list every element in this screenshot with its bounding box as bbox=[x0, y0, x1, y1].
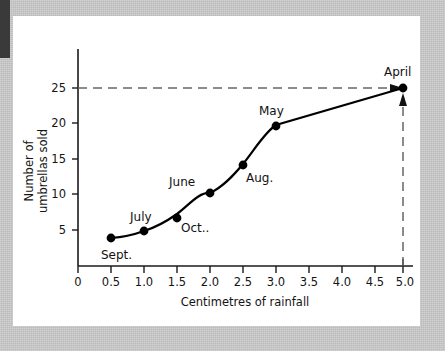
x-tick-label-0: 0 bbox=[74, 275, 81, 289]
data-line-series bbox=[111, 88, 403, 238]
chart-axes bbox=[78, 49, 413, 266]
y-axis-title: Number of umbrellas sold bbox=[22, 129, 50, 213]
line-chart: 25 20 15 10 5 0 0 bbox=[13, 16, 420, 326]
y-tick-label-5: 5 bbox=[59, 223, 66, 237]
data-point-label-may: May bbox=[259, 104, 284, 118]
data-point-label-sept: Sept. bbox=[101, 248, 132, 262]
y-axis-title-line1: Number of bbox=[22, 140, 36, 202]
x-tick-label-10: 1.0 bbox=[135, 275, 153, 289]
x-tick-label-25: 2.5 bbox=[234, 275, 252, 289]
chart-panel: 25 20 15 10 5 0 0 bbox=[13, 16, 420, 326]
data-point-label-july: July bbox=[129, 210, 152, 224]
x-tick-label-45: 4.5 bbox=[366, 275, 384, 289]
y-tick-label-20: 20 bbox=[51, 116, 66, 130]
data-point-may[interactable] bbox=[272, 122, 281, 131]
data-point-label-aug: Aug. bbox=[246, 171, 273, 185]
y-tick-label-15: 15 bbox=[51, 152, 66, 166]
data-point-markers bbox=[107, 84, 408, 243]
data-point-july[interactable] bbox=[140, 227, 149, 236]
data-point-april[interactable] bbox=[399, 84, 408, 93]
y-tick-label-10: 10 bbox=[51, 187, 66, 201]
page-edge-tab bbox=[0, 0, 10, 58]
x-tick-label-20: 2.0 bbox=[201, 275, 219, 289]
data-point-label-june: June bbox=[168, 175, 195, 189]
y-tick-marks bbox=[72, 88, 78, 230]
x-tick-label-05: 0.5 bbox=[102, 275, 120, 289]
data-point-sept[interactable] bbox=[107, 234, 116, 243]
x-tick-label-30: 3.0 bbox=[267, 275, 285, 289]
y-axis-title-line2: umbrellas sold bbox=[36, 129, 50, 213]
x-axis-title: Centimetres of rainfall bbox=[181, 295, 310, 309]
guide-lines bbox=[78, 84, 407, 266]
x-tick-label-50: 5.0 bbox=[396, 275, 414, 289]
vertical-guide-arrowhead-icon bbox=[399, 93, 407, 106]
x-tick-label-40: 4.0 bbox=[333, 275, 351, 289]
data-point-label-oct: Oct.. bbox=[181, 221, 209, 235]
page-root: 25 20 15 10 5 0 0 bbox=[0, 0, 445, 351]
data-point-june[interactable] bbox=[206, 189, 215, 198]
x-tick-labels: 0 0.5 1.0 1.5 2.0 2.5 3.0 3.5 4.0 4.5 5.… bbox=[74, 275, 414, 289]
y-tick-labels: 25 20 15 10 5 bbox=[51, 81, 66, 237]
x-tick-label-15: 1.5 bbox=[168, 275, 186, 289]
x-tick-label-35: 3.5 bbox=[300, 275, 318, 289]
data-point-label-april: April bbox=[384, 65, 411, 79]
data-point-aug[interactable] bbox=[239, 161, 248, 170]
y-tick-label-25: 25 bbox=[51, 81, 66, 95]
